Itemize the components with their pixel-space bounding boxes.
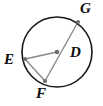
point-E — [23, 57, 27, 61]
point-D-center — [55, 50, 60, 55]
point-F — [43, 79, 47, 83]
point-label-E: E — [4, 52, 14, 67]
segment-DE — [25, 52, 57, 59]
segment-EF — [25, 59, 45, 81]
circle-geometry-figure: G E D F — [0, 0, 103, 106]
point-label-G: G — [80, 1, 91, 16]
point-label-D: D — [70, 45, 81, 60]
point-label-F: F — [36, 86, 46, 101]
point-G — [76, 20, 80, 24]
